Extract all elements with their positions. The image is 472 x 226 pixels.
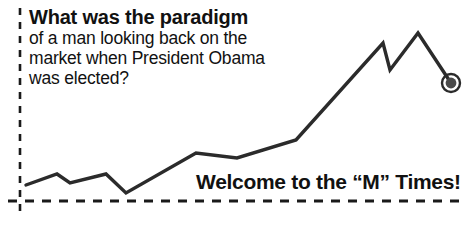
endpoint-marker-icon <box>442 74 460 92</box>
caption-body-line-3: was elected? <box>29 68 297 88</box>
cartoon-panel: What was the paradigm of a man looking b… <box>0 0 472 226</box>
caption-tagline: Welcome to the “M” Times! <box>196 170 461 193</box>
caption-block: What was the paradigm of a man looking b… <box>29 6 297 88</box>
caption-body-line-1: of a man looking back on the <box>29 28 297 48</box>
caption-body-line-2: market when President Obama <box>29 48 297 68</box>
marker-inner-dot <box>446 78 457 89</box>
caption-headline: What was the paradigm <box>29 6 297 28</box>
